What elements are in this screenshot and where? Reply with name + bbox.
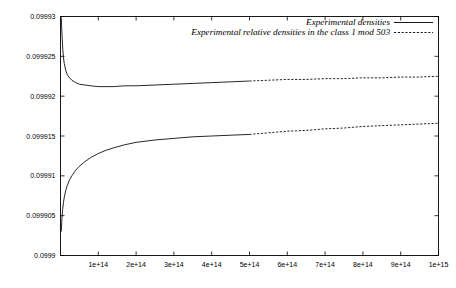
legend-label-0: Experimental densities xyxy=(305,17,390,27)
y-tick-label-6: 0.09993 xyxy=(30,13,55,20)
x-tick-label-2: 3e+14 xyxy=(164,261,184,268)
x-tick-label-0: 1e+14 xyxy=(88,261,108,268)
chart-background xyxy=(0,0,456,288)
y-tick-label-4: 0.09992 xyxy=(30,93,55,100)
y-tick-label-2: 0.09991 xyxy=(30,172,55,179)
x-tick-label-3: 4e+14 xyxy=(202,261,222,268)
chart-plot: 0.09990.0999050.099910.0999150.099920.09… xyxy=(0,0,456,288)
y-tick-label-3: 0.099915 xyxy=(26,133,55,140)
y-tick-label-5: 0.099925 xyxy=(26,53,55,60)
x-tick-label-4: 5e+14 xyxy=(240,261,260,268)
x-tick-label-6: 7e+14 xyxy=(315,261,335,268)
x-tick-label-1: 2e+14 xyxy=(126,261,146,268)
x-tick-label-8: 9e+14 xyxy=(391,261,411,268)
x-tick-label-9: 1e+15 xyxy=(429,261,449,268)
y-tick-label-0: 0.0999 xyxy=(34,252,56,259)
legend-label-1: Experimental relative densities in the c… xyxy=(190,27,390,37)
x-tick-label-7: 8e+14 xyxy=(353,261,373,268)
chart-container: 0.09990.0999050.099910.0999150.099920.09… xyxy=(0,0,456,288)
y-tick-label-1: 0.099905 xyxy=(26,212,55,219)
x-tick-label-5: 6e+14 xyxy=(277,261,297,268)
